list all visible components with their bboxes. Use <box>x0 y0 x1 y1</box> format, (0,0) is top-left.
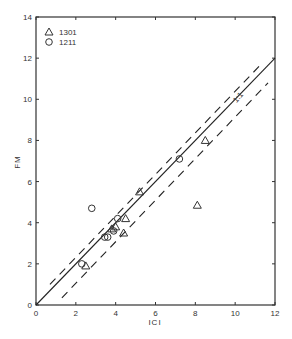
one-to-one-annotation: 1:1 <box>231 90 245 105</box>
dashed-bound-line <box>50 64 261 284</box>
circle-marker-icon <box>88 205 95 212</box>
y-tick-label: 4 <box>28 219 33 228</box>
x-tick-label: 6 <box>153 309 158 318</box>
data-points <box>79 136 210 268</box>
y-tick-label: 0 <box>28 301 33 310</box>
triangle-marker-icon <box>201 136 209 143</box>
dashed-bound-line <box>62 83 268 298</box>
y-tick-label: 12 <box>23 54 32 63</box>
x-tick-label: 12 <box>271 309 280 318</box>
y-tick-label: 10 <box>23 95 32 104</box>
y-tick-label: 8 <box>28 136 33 145</box>
y-axis-label: FM <box>13 155 22 169</box>
x-axis-label: ICI <box>148 318 161 327</box>
scatter-chart: 02468101202468101214 1301 1211 ICI FM 1:… <box>0 0 292 339</box>
x-tick-label: 0 <box>34 309 39 318</box>
x-tick-label: 2 <box>74 309 79 318</box>
legend-label-1211: 1211 <box>59 38 77 47</box>
y-tick-label: 6 <box>28 178 33 187</box>
x-tick-label: 4 <box>113 309 118 318</box>
legend-circle-icon <box>46 39 53 46</box>
x-tick-label: 10 <box>231 309 240 318</box>
y-tick-label: 14 <box>23 13 32 22</box>
legend: 1301 1211 <box>45 28 77 47</box>
triangle-marker-icon <box>193 201 201 208</box>
legend-triangle-icon <box>45 28 53 35</box>
x-tick-label: 8 <box>193 309 198 318</box>
y-tick-label: 2 <box>28 260 33 269</box>
triangle-marker-icon <box>82 262 90 269</box>
legend-label-1301: 1301 <box>59 28 77 37</box>
triangle-marker-icon <box>120 229 128 236</box>
